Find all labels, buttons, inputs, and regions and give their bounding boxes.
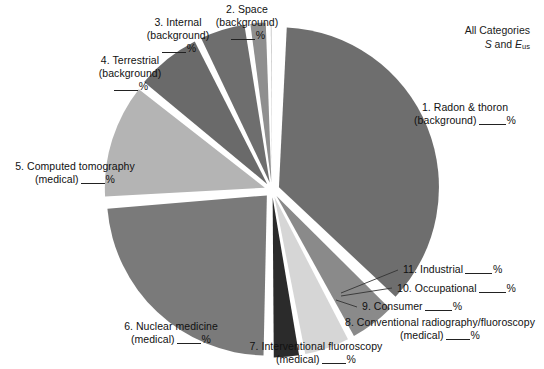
percent-sign-consumer: % [453, 300, 462, 312]
label-internal: 3. Internal (background) % [126, 16, 230, 55]
percent-sign-ct: % [106, 173, 115, 185]
percent-sign-interventional: % [347, 353, 356, 365]
label-conventional-line2: (medical)% [336, 329, 544, 342]
label-terrestrial: 4. Terrestrial (background) % [76, 54, 184, 93]
pie-chart-figure: All Categories S and Eus 1. Radon & thor… [0, 0, 544, 369]
symbol-e-subscript: us [522, 42, 530, 51]
label-nuclear-sublabel: (medical) [131, 333, 175, 345]
percent-sign-industrial: % [493, 263, 502, 275]
label-ct-sublabel: (medical) [35, 173, 79, 185]
label-radon-sublabel: (background) [414, 114, 476, 126]
value-blank-space[interactable] [231, 30, 255, 40]
label-radon: 1. Radon & thoron (background)% [396, 101, 534, 127]
title-conjunction: and [495, 38, 513, 50]
percent-sign-radon: % [507, 114, 516, 126]
value-blank-consumer[interactable] [425, 301, 452, 311]
value-blank-radon[interactable] [479, 115, 506, 125]
label-industrial: 11. Industrial% [403, 263, 502, 276]
label-terrestrial-value: % [76, 80, 184, 93]
value-blank-occupational[interactable] [479, 283, 506, 293]
value-blank-nuclear[interactable] [177, 334, 201, 344]
label-nuclear-line2: (medical)% [101, 333, 241, 346]
label-interventional-line2: (medical)% [228, 353, 404, 366]
chart-title-line2: S and Eus [465, 38, 530, 54]
label-conventional-radiography: 8. Conventional radiography/fluoroscopy … [336, 316, 544, 342]
label-ct-line2: (medical)% [2, 173, 148, 186]
label-interventional-sublabel: (medical) [276, 353, 320, 365]
label-radon-line2: (background)% [396, 114, 534, 127]
label-ct-line1: 5. Computed tomography [2, 160, 148, 173]
label-nuclear-medicine: 6. Nuclear medicine (medical)% [101, 320, 241, 346]
label-conventional-sublabel: (medical) [400, 329, 444, 341]
label-consumer-text: 9. Consumer [362, 300, 423, 312]
label-terrestrial-line2: (background) [76, 67, 184, 80]
percent-sign-terrestrial: % [139, 80, 148, 92]
symbol-s: S [485, 38, 492, 50]
label-conventional-line1: 8. Conventional radiography/fluoroscopy [336, 316, 544, 329]
value-blank-conventional[interactable] [446, 330, 470, 340]
label-occupational-text: 10. Occupational [397, 282, 477, 294]
chart-title: All Categories S and Eus [465, 24, 530, 53]
label-internal-line2: (background) [126, 29, 230, 42]
label-internal-line1: 3. Internal [126, 16, 230, 29]
label-occupational: 10. Occupational% [397, 282, 516, 295]
label-radon-line1: 1. Radon & thoron [396, 101, 534, 114]
percent-sign-nuclear: % [202, 333, 211, 345]
label-consumer: 9. Consumer% [362, 300, 462, 313]
label-space-line1: 2. Space [195, 3, 299, 16]
chart-title-line1: All Categories [465, 24, 530, 38]
value-blank-internal[interactable] [162, 43, 186, 53]
value-blank-terrestrial[interactable] [114, 81, 138, 91]
label-terrestrial-line1: 4. Terrestrial [76, 54, 184, 67]
value-blank-interventional[interactable] [322, 354, 346, 364]
label-interventional-fluoroscopy: 7. Interventional fluoroscopy (medical)% [228, 340, 404, 366]
label-nuclear-line1: 6. Nuclear medicine [101, 320, 241, 333]
percent-sign-internal: % [187, 42, 196, 54]
value-blank-industrial[interactable] [465, 264, 492, 274]
percent-sign-space: % [256, 29, 265, 41]
percent-sign-conventional: % [471, 329, 480, 341]
value-blank-ct[interactable] [81, 174, 105, 184]
label-computed-tomography: 5. Computed tomography (medical)% [2, 160, 148, 186]
label-industrial-text: 11. Industrial [403, 263, 463, 275]
percent-sign-occupational: % [507, 282, 516, 294]
pie-slice-occupational[interactable] [271, 22, 272, 182]
